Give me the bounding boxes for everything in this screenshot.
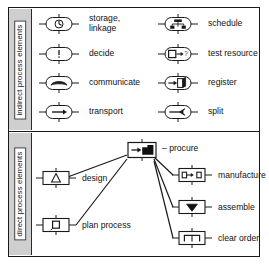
section-tab-indirect: indirect process elements — [9, 9, 32, 130]
legend-label-schedule: schedule — [208, 19, 242, 29]
section-tab-indirect-label: indirect process elements — [14, 20, 26, 119]
diagram-canvas: indirect process elements direct process… — [0, 0, 269, 265]
split-arrow-icon — [157, 101, 199, 123]
legend-label-communicate: communicate — [89, 78, 140, 88]
legend-label-decide: decide — [89, 49, 114, 59]
legend-label-transport: transport — [89, 107, 123, 117]
right-arrow-icon — [38, 101, 80, 123]
node-label-clear-order: clear order — [218, 233, 259, 243]
direct-process-graph: – procure design — [32, 133, 260, 255]
hierarchy-tree-icon — [157, 13, 199, 35]
section-divider — [8, 131, 260, 132]
legend-item-communicate[interactable]: communicate — [38, 72, 140, 94]
legend-item-schedule[interactable]: schedule — [157, 13, 242, 35]
node-label-procure: – procure — [162, 143, 198, 153]
legend-label-test-resource: test resource — [208, 49, 258, 59]
arrow-into-book-icon — [157, 72, 199, 94]
legend-item-test-resource[interactable]: ? test resource — [157, 43, 258, 65]
legend-item-transport[interactable]: transport — [38, 101, 123, 123]
legend-label-storage-linkage: storage, linkage — [89, 14, 120, 34]
section-tab-direct-label: direct process elements — [14, 148, 26, 241]
node-label-manufacture: manufacture — [218, 170, 266, 180]
handset-icon — [38, 72, 80, 94]
node-label-plan-process: plan process — [82, 220, 131, 230]
legend-item-split[interactable]: split — [157, 101, 223, 123]
section-tab-direct: direct process elements — [9, 133, 32, 255]
node-label-assemble: assemble — [218, 202, 255, 212]
legend-label-split: split — [208, 107, 223, 117]
exclamation-icon — [38, 43, 80, 65]
procure-label-text: procure — [169, 143, 198, 153]
legend-item-storage-linkage[interactable]: storage, linkage — [38, 13, 120, 35]
legend-item-register[interactable]: register — [157, 72, 237, 94]
legend-label-register: register — [208, 78, 237, 88]
legend-item-decide[interactable]: decide — [38, 43, 114, 65]
box-arrow-question-icon: ? — [157, 43, 199, 65]
clock-icon — [38, 13, 80, 35]
svg-text:?: ? — [184, 50, 188, 57]
node-label-design: design — [82, 173, 107, 183]
